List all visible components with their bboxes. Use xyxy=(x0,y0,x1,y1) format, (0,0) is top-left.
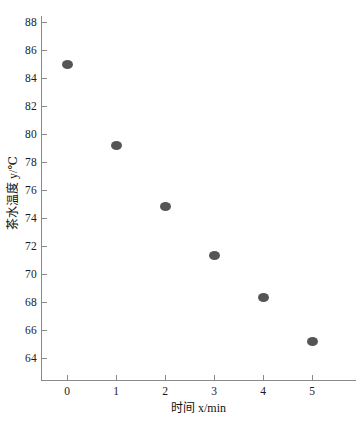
y-axis-tick xyxy=(42,358,47,359)
y-axis-tick xyxy=(42,50,47,51)
y-axis-tick-label: 88 xyxy=(0,16,37,28)
x-axis-tick-label: 1 xyxy=(105,385,127,398)
x-axis-tick xyxy=(312,375,313,380)
y-axis-tick-label: 70 xyxy=(0,268,37,280)
x-axis-title: 时间 x/min xyxy=(41,401,356,415)
y-axis-tick-label-text: 70 xyxy=(3,268,37,280)
y-axis-tick xyxy=(42,330,47,331)
y-axis-tick-label: 82 xyxy=(0,100,37,112)
data-point xyxy=(307,337,318,346)
data-point xyxy=(160,202,171,211)
x-axis-tick xyxy=(165,375,166,380)
y-axis-tick xyxy=(42,190,47,191)
plot-area xyxy=(0,0,364,425)
x-axis-tick-label: 0 xyxy=(56,385,78,398)
y-axis-tick xyxy=(42,106,47,107)
y-axis-tick-label-text: 86 xyxy=(3,44,37,56)
y-axis-tick-label-text: 64 xyxy=(3,352,37,364)
y-axis-tick-label-text: 82 xyxy=(3,100,37,112)
x-axis-line xyxy=(41,380,356,381)
y-axis-tick-label: 86 xyxy=(0,44,37,56)
data-point xyxy=(111,141,122,150)
y-axis-tick xyxy=(42,218,47,219)
x-axis-tick-label: 3 xyxy=(203,385,225,398)
x-axis-tick xyxy=(214,375,215,380)
y-axis-tick xyxy=(42,302,47,303)
y-axis-tick xyxy=(42,78,47,79)
x-axis-tick-label: 4 xyxy=(252,385,274,398)
x-axis-tick-label: 2 xyxy=(154,385,176,398)
y-axis-tick-label: 84 xyxy=(0,72,37,84)
x-axis-tick xyxy=(263,375,264,380)
scatter-chart: 64666870727476788082848688 012345 时间 x/m… xyxy=(0,0,364,425)
data-point xyxy=(209,251,220,260)
x-axis-tick xyxy=(116,375,117,380)
y-axis-tick-label-text: 68 xyxy=(3,296,37,308)
y-axis-tick xyxy=(42,22,47,23)
data-point xyxy=(258,293,269,302)
x-axis-tick-label: 5 xyxy=(301,385,323,398)
y-axis-tick-label-text: 88 xyxy=(3,16,37,28)
y-axis-tick xyxy=(42,246,47,247)
y-axis-tick xyxy=(42,162,47,163)
y-axis-tick xyxy=(42,274,47,275)
y-axis-tick xyxy=(42,134,47,135)
x-axis-tick xyxy=(67,375,68,380)
y-axis-tick-label-text: 66 xyxy=(3,324,37,336)
data-point xyxy=(62,60,73,69)
y-axis-tick-label: 68 xyxy=(0,296,37,308)
y-axis-tick-label-text: 84 xyxy=(3,72,37,84)
y-axis-tick-label: 66 xyxy=(0,324,37,336)
y-axis-tick-label: 64 xyxy=(0,352,37,364)
y-axis-line xyxy=(41,16,42,381)
y-axis-title: 茶水温度 y/℃ xyxy=(6,133,20,253)
